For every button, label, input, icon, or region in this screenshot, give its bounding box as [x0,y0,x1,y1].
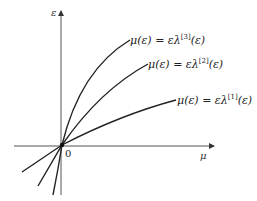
curve-3-line [53,40,130,195]
origin-label: 0 [65,148,71,159]
origin-point [60,143,64,147]
curve-3-label: μ(ε) = ελ[3](ε) [130,33,205,47]
curve-1-label: μ(ε) = ελ[1](ε) [177,93,252,107]
curve-2-line [38,64,148,186]
y-axis-label: ε [51,7,56,18]
x-axis-label: μ [200,150,207,161]
curve-2-label: μ(ε) = ελ[2](ε) [148,57,223,71]
diagram: ε μ 0 μ(ε) = ελ[3](ε) μ(ε) = ελ[2](ε) μ(… [0,0,257,201]
curve-1-line [22,100,176,172]
